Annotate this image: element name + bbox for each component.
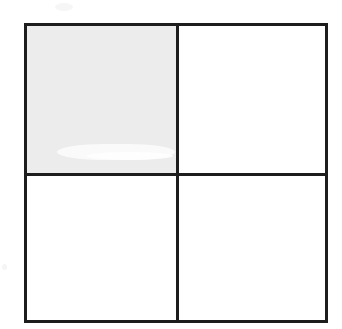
scan-speck (55, 3, 73, 11)
horizontal-divider-line (27, 173, 325, 176)
paper-background (0, 0, 342, 329)
quadrant-bottom-left (27, 173, 176, 320)
square-figure (24, 23, 328, 323)
scan-glare-highlight (87, 152, 173, 160)
scan-speck (2, 264, 7, 270)
quadrant-bottom-right (176, 173, 325, 320)
quadrant-top-right (176, 26, 325, 173)
